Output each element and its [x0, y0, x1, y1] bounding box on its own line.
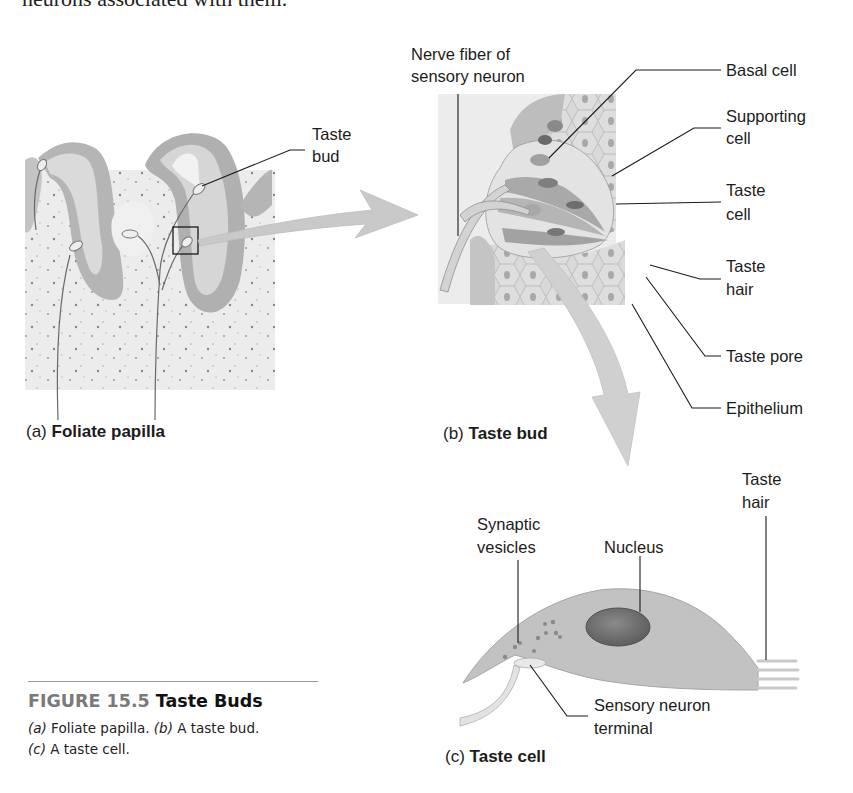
taste-bud-illustration	[438, 70, 721, 408]
desc-b-text: A taste bud.	[173, 720, 259, 736]
figure-name: Taste Buds	[156, 691, 263, 711]
nucleus-shape	[586, 608, 650, 646]
desc-c-letter: (c)	[28, 741, 46, 757]
caption-a-letter: (a)	[26, 422, 47, 441]
caption-c-title: Taste cell	[470, 747, 546, 766]
desc-a-text: Foliate papilla.	[47, 720, 154, 736]
label-nerve-fiber-line1: Nerve fiber of	[411, 44, 510, 64]
caption-b: (b) Taste bud	[443, 424, 548, 444]
figure-number: FIGURE 15.5	[28, 691, 150, 711]
label-taste-hair-c-line2: hair	[742, 492, 770, 512]
caption-a: (a) Foliate papilla	[26, 422, 165, 442]
label-taste-hair-b-line2: hair	[726, 279, 754, 299]
label-sensory-terminal-line2: terminal	[594, 718, 653, 738]
label-epithelium: Epithelium	[726, 398, 803, 418]
label-supporting-cell-line1: Supporting	[726, 106, 806, 126]
label-sensory-terminal-line1: Sensory neuron	[594, 695, 711, 715]
desc-b-letter: (b)	[154, 720, 173, 736]
label-taste-cell-line1: Taste	[726, 180, 765, 200]
foliate-papilla-illustration	[25, 130, 305, 420]
caption-b-letter: (b)	[443, 424, 464, 443]
label-taste-hair-b-line1: Taste	[726, 256, 765, 276]
label-taste-pore: Taste pore	[726, 346, 803, 366]
label-synaptic-vesicles-line1: Synaptic	[477, 514, 540, 534]
desc-c-text: A taste cell.	[46, 741, 130, 757]
label-nucleus: Nucleus	[604, 537, 664, 557]
figure-description: (a) Foliate papilla. (b) A taste bud. (c…	[28, 718, 328, 760]
caption-c: (c) Taste cell	[445, 747, 546, 767]
label-taste-bud-a-line1: Taste	[312, 124, 351, 144]
figure-title: FIGURE 15.5Taste Buds	[28, 691, 263, 711]
desc-a-letter: (a)	[28, 720, 47, 736]
caption-c-letter: (c)	[445, 747, 465, 766]
label-nerve-fiber-line2: sensory neuron	[411, 66, 525, 86]
label-taste-bud-a-line2: bud	[312, 146, 340, 166]
label-taste-cell-line2: cell	[726, 204, 751, 224]
label-basal-cell: Basal cell	[726, 60, 797, 80]
figure-divider	[28, 681, 318, 682]
caption-a-title: Foliate papilla	[52, 422, 165, 441]
label-synaptic-vesicles-line2: vesicles	[477, 537, 536, 557]
label-supporting-cell-line2: cell	[726, 128, 751, 148]
caption-b-title: Taste bud	[469, 424, 548, 443]
label-taste-hair-c-line1: Taste	[742, 469, 781, 489]
